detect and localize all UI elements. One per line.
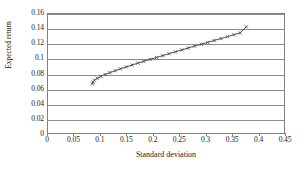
data-point-marker xyxy=(93,79,96,82)
x-tick-label: 0.45 xyxy=(265,136,298,144)
chart-container: 00.020.040.060.080.10.120.140.16 Expecte… xyxy=(0,0,298,174)
data-series-layer xyxy=(48,14,286,135)
x-tick-mark xyxy=(232,133,233,136)
y-tick-label: 0.04 xyxy=(0,100,44,108)
x-tick-mark xyxy=(100,133,101,136)
x-tick-mark xyxy=(126,133,127,136)
y-tick-label: 0.06 xyxy=(0,85,44,93)
data-point-marker xyxy=(96,77,99,80)
plot-area xyxy=(47,13,285,134)
x-tick-mark xyxy=(47,133,48,136)
x-axis-tick-labels: 00.050.10.150.20.250.30.350.40.45 xyxy=(47,136,285,148)
x-axis-title: Standard deviation xyxy=(47,150,285,159)
x-tick-mark xyxy=(73,133,74,136)
series-line xyxy=(92,27,246,84)
x-tick-mark xyxy=(179,133,180,136)
data-point-marker xyxy=(245,25,248,28)
x-tick-mark xyxy=(206,133,207,136)
x-tick-mark xyxy=(259,133,260,136)
x-tick-mark xyxy=(285,133,286,136)
y-axis-title: Expected return xyxy=(5,5,13,85)
y-tick-label: 0.02 xyxy=(0,115,44,123)
x-tick-mark xyxy=(153,133,154,136)
